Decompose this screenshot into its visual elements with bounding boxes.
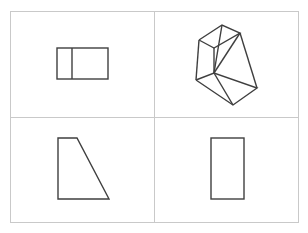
quadrant-top-left[interactable]: Top view — [10, 11, 154, 117]
quadrant-bottom-left[interactable]: Side view — [10, 117, 154, 222]
quadrant-bottom-right[interactable]: Front view — [154, 117, 298, 222]
worksheet-page: Top view Pictorial view Side view Front … — [0, 0, 308, 233]
quadrant-top-right[interactable]: Pictorial view — [154, 11, 298, 117]
